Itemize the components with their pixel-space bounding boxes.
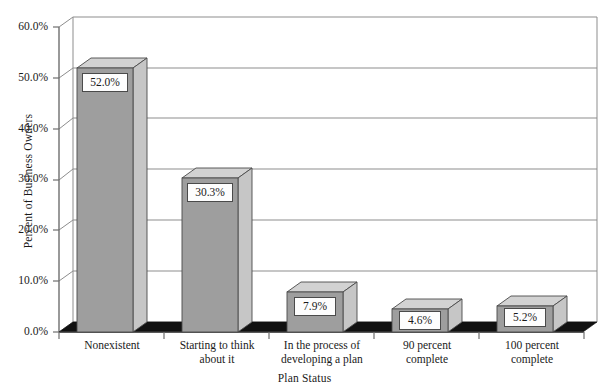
axis-depth-connectors bbox=[59, 17, 73, 332]
x-tick-label: In the process of developing a plan bbox=[267, 339, 377, 366]
x-tick-label: Nonexistent bbox=[57, 339, 167, 353]
gridlines bbox=[73, 17, 597, 322]
bar-value-label: 52.0% bbox=[82, 73, 128, 92]
x-axis-ticks bbox=[59, 332, 584, 339]
x-tick-label: 100 percent complete bbox=[477, 339, 587, 366]
bar-chart: Percent of Business Owners Plan Status 6… bbox=[0, 0, 609, 392]
bar-column[interactable] bbox=[77, 58, 147, 332]
bar-side-face bbox=[238, 168, 252, 332]
x-tick-label: Starting to think about it bbox=[162, 339, 272, 366]
x-tick-label: 90 percent complete bbox=[372, 339, 482, 366]
bar-side-face bbox=[133, 58, 147, 332]
bar-value-label: 30.3% bbox=[187, 183, 233, 202]
bar-value-label: 7.9% bbox=[294, 297, 336, 316]
y-axis-ticks bbox=[53, 27, 59, 332]
bar-value-label: 5.2% bbox=[504, 308, 546, 327]
plot-area bbox=[0, 0, 609, 392]
bar-front-face bbox=[77, 68, 133, 332]
bar-value-label: 4.6% bbox=[399, 311, 441, 330]
